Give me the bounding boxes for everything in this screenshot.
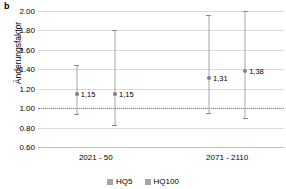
data-point-marker <box>243 69 247 73</box>
y-axis-tick-label: 1.80 <box>19 26 35 35</box>
error-bar <box>245 11 246 119</box>
panel-label: b <box>4 2 10 11</box>
gridline <box>38 30 284 31</box>
plot-area: 0.600.801.001.201.401.601.802.001,151,15… <box>38 11 284 147</box>
data-point-label: 1,15 <box>119 89 134 98</box>
y-axis-tick-label: 1.60 <box>19 45 35 54</box>
data-point-label: 1,15 <box>81 89 96 98</box>
error-bar <box>208 15 209 114</box>
y-axis-tick-label: 0.60 <box>19 143 35 152</box>
legend-label: HQ100 <box>154 177 179 186</box>
chart-figure: b Änderungsfaktor 0.600.801.001.201.401.… <box>0 0 286 189</box>
y-axis-tick-label: 1.20 <box>19 84 35 93</box>
reference-line <box>38 108 284 109</box>
gridline <box>38 89 284 90</box>
error-bar-cap-lower <box>243 118 248 119</box>
error-bar-cap-upper <box>112 30 117 31</box>
chart-legend: HQ5HQ100 <box>0 177 286 186</box>
y-axis-tick-label: 1.40 <box>19 65 35 74</box>
y-axis-tick-label: 2.00 <box>19 7 35 16</box>
error-bar-cap-upper <box>74 65 79 66</box>
legend-item: HQ100 <box>145 177 179 186</box>
y-axis-tick-label: 0.80 <box>19 123 35 132</box>
error-bar-cap-lower <box>112 125 117 126</box>
x-axis-category-label: 2071 - 2110 <box>206 153 248 162</box>
legend-swatch-icon <box>107 179 113 185</box>
gridline <box>38 50 284 51</box>
data-point-marker <box>113 92 117 96</box>
data-point-label: 1,31 <box>213 74 228 83</box>
y-axis-tick-label: 1.00 <box>19 104 35 113</box>
error-bar-cap-upper <box>243 11 248 12</box>
error-bar-cap-lower <box>74 114 79 115</box>
x-axis-category-label: 2021 - 50 <box>79 153 113 162</box>
gridline <box>38 128 284 129</box>
legend-item: HQ5 <box>107 177 132 186</box>
legend-swatch-icon <box>145 179 151 185</box>
error-bar <box>114 30 115 125</box>
gridline <box>38 147 284 148</box>
data-point-marker <box>207 76 211 80</box>
error-bar-cap-upper <box>206 15 211 16</box>
error-bar <box>76 65 77 115</box>
data-point-marker <box>75 92 79 96</box>
data-point-label: 1,38 <box>249 67 264 76</box>
legend-label: HQ5 <box>116 177 132 186</box>
error-bar-cap-lower <box>206 113 211 114</box>
